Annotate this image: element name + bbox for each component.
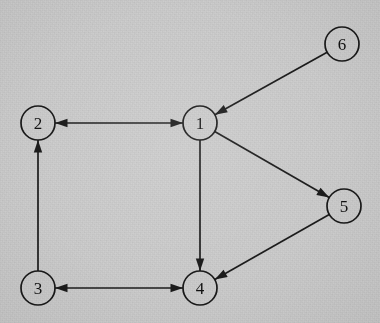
- node-1[interactable]: 1: [183, 106, 217, 140]
- arrowhead-to-2: [34, 140, 42, 153]
- arrowhead-to-1: [215, 105, 228, 115]
- edge-3-2: [34, 140, 42, 271]
- node-3[interactable]: 3: [21, 271, 55, 305]
- node-2-label: 2: [34, 114, 43, 133]
- arrowhead-to-3: [55, 284, 68, 292]
- edge-1-2: [55, 119, 183, 127]
- edge-5-4: [215, 214, 329, 279]
- edge-3-4: [55, 284, 183, 292]
- edge-6-1: [215, 52, 327, 114]
- node-6[interactable]: 6: [325, 27, 359, 61]
- edges-layer: [34, 52, 329, 292]
- node-1-label: 1: [196, 114, 205, 133]
- node-5[interactable]: 5: [327, 189, 361, 223]
- diagram-canvas: 123456: [0, 0, 380, 323]
- arrowhead-to-1: [171, 119, 184, 127]
- node-5-label: 5: [340, 197, 349, 216]
- node-2[interactable]: 2: [21, 106, 55, 140]
- directed-graph: 123456: [0, 0, 380, 323]
- arrowhead-to-5: [316, 188, 329, 198]
- node-4[interactable]: 4: [183, 271, 217, 305]
- node-3-label: 3: [34, 279, 43, 298]
- arrowhead-to-4: [215, 270, 228, 280]
- edge-1-4: [196, 140, 204, 271]
- nodes-layer: 123456: [21, 27, 361, 305]
- arrowhead-to-4: [196, 259, 204, 272]
- node-4-label: 4: [196, 279, 205, 298]
- arrowhead-to-4: [171, 284, 184, 292]
- edge-1-5: [215, 131, 330, 197]
- node-6-label: 6: [338, 35, 347, 54]
- arrowhead-to-2: [55, 119, 68, 127]
